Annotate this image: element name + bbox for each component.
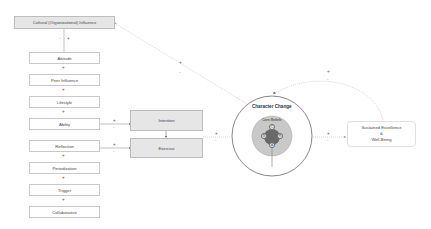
feedback-plus: + [327, 70, 330, 75]
character-outcome-minus: - [327, 139, 329, 144]
stack-label: Ability [59, 122, 70, 127]
stack-label: Periodization [52, 166, 76, 171]
feedback-minus: - [327, 78, 329, 83]
outcome-line3: Well-Being [371, 137, 391, 143]
character-influence-minus: - [179, 71, 181, 76]
stack-box-ability: Ability [29, 118, 100, 130]
stack-connector-plus: + [62, 66, 65, 71]
character-change-title: Character Change [252, 104, 292, 109]
stack-box-reflection: Reflection [29, 140, 100, 152]
stack-connector-plus: + [62, 110, 65, 115]
influence-plus-sign: + [67, 37, 70, 42]
stack-box-collaborative: Collaborative [29, 206, 100, 218]
stack-connector-plus: + [62, 198, 65, 203]
intention-label: Intention [158, 118, 174, 123]
ability-intention-minus: - [113, 126, 115, 131]
core-beliefs-title: Core Beliefs [262, 118, 282, 122]
middle-character-minus: - [215, 139, 217, 144]
middle-character-plus: + [215, 132, 218, 137]
stack-box-lifestyle: Lifestyle [29, 96, 100, 108]
stack-box-trigger: Trigger [29, 184, 100, 196]
core-node-right: R [277, 133, 283, 139]
character-influence-plus: + [179, 61, 182, 66]
stack-box-periodization: Periodization [29, 162, 100, 174]
cultural-influence-box: Cultural (Organizational) Influence [14, 16, 115, 29]
influence-minus-sign: - [59, 37, 61, 42]
core-node-bottom: A [269, 142, 275, 148]
stack-label: Reflection [55, 144, 74, 149]
reflection-exercise-minus: - [113, 150, 115, 155]
stack-connector-plus: + [62, 88, 65, 93]
stack-label: Attitude [57, 56, 71, 61]
cultural-influence-label: Cultural (Organizational) Influence [33, 20, 97, 25]
ability-intention-plus: + [113, 119, 116, 124]
character-outcome-plus: + [327, 132, 330, 137]
exercise-label: Exercise [158, 146, 174, 151]
stack-label: Trigger [58, 188, 71, 193]
core-node-top: C [269, 124, 275, 130]
outcome-box: Sustained Excellence & Well-Being [347, 121, 416, 147]
intention-box: Intention [130, 110, 203, 131]
exercise-box: Exercise [130, 138, 203, 158]
reflection-exercise-plus: + [113, 143, 116, 148]
stack-connector-plus: + [62, 154, 65, 159]
stack-label: Collaborative [52, 210, 76, 215]
stack-label: Lifestyle [57, 100, 72, 105]
stack-label: Peer Influence [51, 78, 78, 83]
stack-box-attitude: Attitude [29, 52, 100, 64]
stack-connector-plus: + [62, 176, 65, 181]
stack-box-peer-influence: Peer Influence [29, 74, 100, 86]
core-node-left: B [261, 133, 267, 139]
